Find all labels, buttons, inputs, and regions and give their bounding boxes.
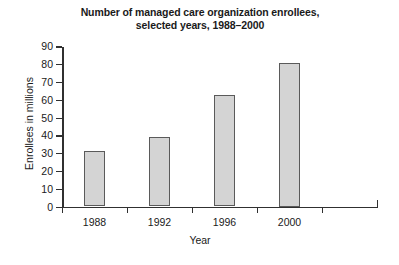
y-axis-line bbox=[62, 47, 64, 208]
bar-1988[interactable] bbox=[84, 151, 105, 206]
bar-2000[interactable] bbox=[279, 63, 300, 207]
bar-1996[interactable] bbox=[214, 95, 235, 206]
plot-area: 0 10 20 30 40 50 60 70 80 90 1988 1992 bbox=[0, 0, 399, 265]
y-tick-10 bbox=[56, 189, 62, 190]
y-tick-70 bbox=[56, 82, 62, 83]
y-tick-20 bbox=[56, 171, 62, 172]
x-axis-label: Year bbox=[120, 234, 280, 246]
x-axis-line bbox=[62, 207, 378, 209]
x-tick-label-2000: 2000 bbox=[260, 216, 320, 228]
y-tick-60 bbox=[56, 100, 62, 101]
x-tick-boundary-1 bbox=[127, 207, 128, 213]
y-tick-80 bbox=[56, 64, 62, 65]
y-tick-40 bbox=[56, 135, 62, 136]
chart-figure: Number of managed care organization enro… bbox=[0, 0, 399, 265]
x-axis-right-cap bbox=[377, 200, 379, 207]
bar-1992[interactable] bbox=[149, 137, 170, 206]
y-tick-50 bbox=[56, 118, 62, 119]
y-axis-label: Enrollees in millions bbox=[24, 54, 35, 194]
y-tick-90 bbox=[56, 46, 62, 47]
x-tick-boundary-0 bbox=[62, 207, 63, 213]
y-tick-label-90: 90 bbox=[20, 41, 53, 52]
y-tick-30 bbox=[56, 153, 62, 154]
x-tick-label-1996: 1996 bbox=[195, 216, 255, 228]
x-tick-label-1992: 1992 bbox=[130, 216, 190, 228]
y-tick-label-0: 0 bbox=[20, 202, 53, 213]
x-tick-boundary-2 bbox=[192, 207, 193, 213]
x-tick-boundary-4 bbox=[322, 207, 323, 213]
x-tick-boundary-3 bbox=[257, 207, 258, 213]
x-tick-label-1988: 1988 bbox=[65, 216, 125, 228]
